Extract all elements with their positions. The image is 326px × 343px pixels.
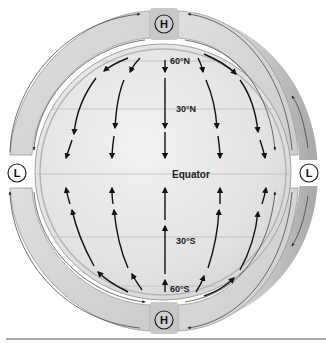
low-pressure-left: L (8, 164, 26, 182)
high-pressure-north-label: H (160, 18, 168, 30)
circulation-diagram: 60°N 30°N Equator 30°S 60°S H H L L (0, 0, 326, 343)
high-pressure-south: H (155, 311, 173, 329)
label-equator: Equator (172, 169, 210, 180)
label-60n: 60°N (170, 56, 190, 66)
label-30s: 30°S (176, 236, 196, 246)
diagram-canvas: 60°N 30°N Equator 30°S 60°S H H L L (0, 0, 326, 343)
low-pressure-right-label: L (306, 167, 313, 179)
label-30n: 30°N (176, 104, 196, 114)
low-pressure-left-label: L (14, 167, 21, 179)
low-pressure-right: L (300, 164, 318, 182)
label-60s: 60°S (170, 284, 190, 294)
high-pressure-south-label: H (160, 314, 168, 326)
high-pressure-north: H (155, 15, 173, 33)
